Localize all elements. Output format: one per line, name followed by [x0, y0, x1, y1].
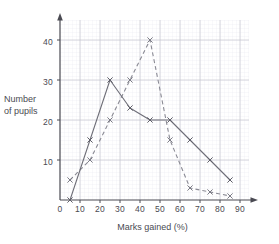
y-tick-label-40: 40	[31, 38, 53, 47]
x-tick-label-10: 10	[69, 205, 91, 214]
y-tick-label-10: 10	[31, 158, 53, 167]
y-tick-label-30: 30	[31, 78, 53, 87]
x-tick-label-30: 30	[109, 205, 131, 214]
x-axis-title: Marks gained (%)	[60, 222, 245, 232]
y-axis-title: Number of pupils	[4, 94, 58, 117]
x-tick-label-50: 50	[149, 205, 171, 214]
x-tick-label-40: 40	[129, 205, 151, 214]
x-tick-label-60: 60	[169, 205, 191, 214]
x-tick-label-70: 70	[189, 205, 211, 214]
y-axis-title-line2: of pupils	[4, 106, 58, 118]
y-axis-title-line1: Number	[4, 94, 58, 106]
y-tick-label-20: 20	[31, 118, 53, 127]
x-tick-label-80: 80	[209, 205, 231, 214]
x-tick-label-0: 0	[49, 205, 71, 214]
minor-gridlines	[60, 20, 249, 200]
x-tick-label-90: 90	[229, 205, 251, 214]
x-tick-label-20: 20	[89, 205, 111, 214]
chart-container: 40 30 20 10 0 10 20 30 40 50 60 70 80 90…	[0, 0, 279, 244]
